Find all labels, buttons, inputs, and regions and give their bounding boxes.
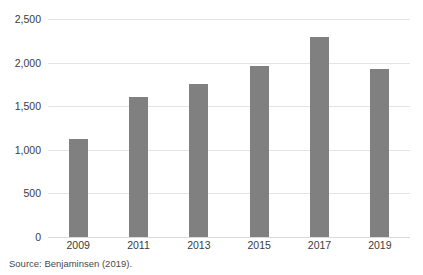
plot-area: [48, 19, 410, 237]
x-axis-tick-labels: 200920112013201520172019: [48, 240, 410, 256]
bar-chart-figure: 2,5002,0001,5001,0005000 200920112013201…: [0, 0, 423, 275]
bar-slot: [350, 19, 410, 237]
bar[interactable]: [129, 97, 148, 237]
x-axis-tick-label: 2019: [350, 240, 410, 251]
y-axis-tick-label: 2,500: [15, 14, 41, 25]
y-axis-tick-label: 1,000: [15, 145, 41, 156]
x-axis-tick-label: 2017: [289, 240, 349, 251]
y-axis-tick-label: 500: [23, 188, 41, 199]
bar-slot: [229, 19, 289, 237]
bar-slot: [48, 19, 108, 237]
x-axis-tick-label: 2009: [48, 240, 108, 251]
bar[interactable]: [69, 139, 88, 237]
y-axis-tick-label: 1,500: [15, 101, 41, 112]
axis-baseline: [48, 237, 410, 238]
y-axis-tick-label: 0: [35, 232, 41, 243]
y-axis-tick-label: 2,000: [15, 58, 41, 69]
bar[interactable]: [310, 37, 329, 237]
source-note: Source: Benjaminsen (2019).: [9, 259, 132, 269]
bar[interactable]: [370, 69, 389, 237]
bar-slot: [289, 19, 349, 237]
x-axis-tick-label: 2013: [169, 240, 229, 251]
bar[interactable]: [189, 84, 208, 237]
bar-slot: [169, 19, 229, 237]
bar[interactable]: [250, 66, 269, 237]
x-axis-tick-label: 2011: [108, 240, 168, 251]
y-axis-tick-labels: 2,5002,0001,5001,0005000: [0, 19, 41, 237]
bar-slot: [108, 19, 168, 237]
x-axis-tick-label: 2015: [229, 240, 289, 251]
